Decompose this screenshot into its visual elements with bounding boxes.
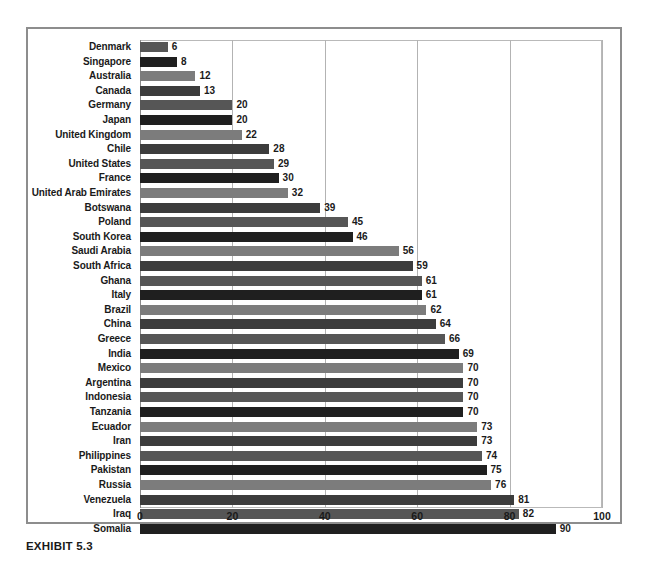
bar-row: Philippines74 xyxy=(28,449,620,464)
bar xyxy=(140,290,422,300)
bar xyxy=(140,159,274,169)
bar-value-label: 75 xyxy=(491,463,502,478)
bar-value-label: 61 xyxy=(426,274,437,289)
category-label: France xyxy=(99,171,131,186)
bar-row: Russia76 xyxy=(28,478,620,493)
bar xyxy=(140,392,463,402)
bar-value-label: 73 xyxy=(481,434,492,449)
x-tick-label-100: 100 xyxy=(593,510,611,522)
bar xyxy=(140,363,463,373)
bar-row: India69 xyxy=(28,347,620,362)
category-label: Iran xyxy=(113,434,131,449)
bar-row: China64 xyxy=(28,317,620,332)
bar-row: United Arab Emirates32 xyxy=(28,186,620,201)
bar-value-label: 29 xyxy=(278,157,289,172)
bar xyxy=(140,246,399,256)
bar xyxy=(140,319,436,329)
category-label: India xyxy=(108,347,131,362)
bar xyxy=(140,71,195,81)
bar-value-label: 64 xyxy=(440,317,451,332)
bar-value-label: 32 xyxy=(292,186,303,201)
bar-row: Ghana61 xyxy=(28,274,620,289)
bar-value-label: 6 xyxy=(172,40,178,55)
bar-value-label: 8 xyxy=(181,55,187,70)
category-label: Chile xyxy=(107,142,131,157)
bar-row: Canada13 xyxy=(28,84,620,99)
bar-value-label: 61 xyxy=(426,288,437,303)
bar-value-label: 20 xyxy=(236,113,247,128)
x-tick-label-60: 60 xyxy=(411,510,423,522)
bar-row: France30 xyxy=(28,171,620,186)
x-tick-label-20: 20 xyxy=(227,510,239,522)
exhibit-caption: EXHIBIT 5.3 xyxy=(26,540,93,552)
bar xyxy=(140,100,232,110)
bar-value-label: 28 xyxy=(273,142,284,157)
bar-row: Saudi Arabia56 xyxy=(28,244,620,259)
category-label: Denmark xyxy=(89,40,131,55)
bar-value-label: 59 xyxy=(417,259,428,274)
category-label: Indonesia xyxy=(85,390,131,405)
bar-value-label: 70 xyxy=(467,376,478,391)
bar-row: Botswana39 xyxy=(28,201,620,216)
bar xyxy=(140,130,242,140)
bar-row: Germany20 xyxy=(28,98,620,113)
bar-row: Italy61 xyxy=(28,288,620,303)
bar-row: Australia12 xyxy=(28,69,620,84)
bar xyxy=(140,480,491,490)
bar-row: Japan20 xyxy=(28,113,620,128)
bar-row: Denmark6 xyxy=(28,40,620,55)
category-label: Canada xyxy=(95,84,131,99)
bar xyxy=(140,261,413,271)
bar xyxy=(140,86,200,96)
bar-value-label: 73 xyxy=(481,420,492,435)
category-label: United Kingdom xyxy=(55,128,131,143)
category-label: Brazil xyxy=(104,303,131,318)
bar-row: Singapore8 xyxy=(28,55,620,70)
bar-value-label: 39 xyxy=(324,201,335,216)
category-label: Venezuela xyxy=(84,493,131,508)
bar xyxy=(140,188,288,198)
bar-row: Poland45 xyxy=(28,215,620,230)
bar xyxy=(140,203,320,213)
bar-row: Ecuador73 xyxy=(28,420,620,435)
bar xyxy=(140,42,168,52)
bar xyxy=(140,422,477,432)
bar-value-label: 81 xyxy=(518,493,529,508)
bar-value-label: 30 xyxy=(283,171,294,186)
category-label: United Arab Emirates xyxy=(32,186,131,201)
bar xyxy=(140,276,422,286)
bar-value-label: 22 xyxy=(246,128,257,143)
bar-row: South Korea46 xyxy=(28,230,620,245)
category-label: South Korea xyxy=(73,230,131,245)
bar-value-label: 12 xyxy=(199,69,210,84)
category-label: Australia xyxy=(89,69,131,84)
category-label: Mexico xyxy=(98,361,131,376)
bar-row: Tanzania70 xyxy=(28,405,620,420)
category-label: Singapore xyxy=(83,55,131,70)
category-label: Pakistan xyxy=(91,463,131,478)
bar-value-label: 13 xyxy=(204,84,215,99)
category-label: Japan xyxy=(103,113,131,128)
bar-rows: Denmark6Singapore8Australia12Canada13Ger… xyxy=(28,29,620,522)
category-label: United States xyxy=(68,157,131,172)
category-label: South Africa xyxy=(73,259,131,274)
bar xyxy=(140,349,459,359)
exhibit-panel: Denmark6Singapore8Australia12Canada13Ger… xyxy=(26,27,622,524)
bar-value-label: 20 xyxy=(236,98,247,113)
bar-row: Iran73 xyxy=(28,434,620,449)
category-label: Italy xyxy=(111,288,131,303)
x-tick-label-80: 80 xyxy=(504,510,516,522)
category-label: Argentina xyxy=(85,376,131,391)
category-label: Germany xyxy=(88,98,131,113)
bar xyxy=(140,378,463,388)
bar xyxy=(140,144,269,154)
bar-row: Indonesia70 xyxy=(28,390,620,405)
category-label: China xyxy=(104,317,131,332)
category-label: Ecuador xyxy=(92,420,131,435)
bar xyxy=(140,57,177,67)
category-label: Botswana xyxy=(85,201,131,216)
bar xyxy=(140,334,445,344)
bar xyxy=(140,436,477,446)
bar-value-label: 70 xyxy=(467,361,478,376)
category-label: Philippines xyxy=(79,449,131,464)
